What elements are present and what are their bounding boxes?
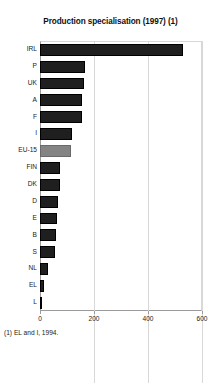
bar-row (40, 227, 202, 244)
bar-row (40, 294, 202, 311)
x-tick-400 (148, 311, 149, 314)
bar-series (40, 41, 202, 311)
bar-UK (40, 78, 84, 90)
y-tick-label-B: B (0, 227, 37, 244)
y-tick-label-L: L (0, 294, 37, 311)
x-tick-200 (94, 311, 95, 314)
y-tick-label-D: D (0, 193, 37, 210)
bar-S (40, 246, 55, 258)
y-tick-label-UK: UK (0, 75, 37, 92)
bar-row (40, 92, 202, 109)
bar-row (40, 277, 202, 294)
y-tick-label-E: E (0, 210, 37, 227)
bar-row (40, 75, 202, 92)
y-tick-label-I: I (0, 125, 37, 142)
gridline-600 (202, 41, 203, 383)
bar-row (40, 193, 202, 210)
bar-B (40, 229, 56, 241)
y-axis-labels: IRLPUKAFIEU-15FINDKDEBSNLELL (0, 41, 37, 311)
bar-IRL (40, 44, 183, 56)
y-tick-label-NL: NL (0, 260, 37, 277)
bar-row (40, 58, 202, 75)
y-tick-label-FIN: FIN (0, 159, 37, 176)
bar-P (40, 61, 85, 73)
chart-footnote: (1) EL and I, 1994. (4, 329, 58, 336)
y-tick-label-S: S (0, 244, 37, 261)
bar-row (40, 41, 202, 58)
y-tick-label-IRL: IRL (0, 41, 37, 58)
bar-L (40, 297, 42, 309)
x-tick-label-200: 200 (79, 315, 109, 322)
y-tick-label-EU-15: EU-15 (0, 142, 37, 159)
bar-row (40, 176, 202, 193)
y-tick-label-EL: EL (0, 277, 37, 294)
bar-D (40, 196, 58, 208)
bar-EL (40, 280, 44, 292)
bar-DK (40, 179, 60, 191)
bar-row (40, 244, 202, 261)
bar-row (40, 210, 202, 227)
bar-row (40, 142, 202, 159)
x-tick-0 (40, 311, 41, 314)
x-tick-label-0: 0 (25, 315, 55, 322)
y-tick-label-F: F (0, 109, 37, 126)
bar-FIN (40, 162, 60, 174)
bar-A (40, 94, 82, 106)
x-tick-600 (202, 311, 203, 314)
bar-E (40, 213, 57, 225)
bar-row (40, 159, 202, 176)
bar-row (40, 260, 202, 277)
y-tick-label-DK: DK (0, 176, 37, 193)
bar-EU-15 (40, 145, 71, 157)
bar-row (40, 109, 202, 126)
y-tick-label-A: A (0, 92, 37, 109)
bar-I (40, 128, 72, 140)
bar-NL (40, 263, 48, 275)
y-tick-label-P: P (0, 58, 37, 75)
bar-F (40, 111, 82, 123)
x-tick-label-400: 400 (133, 315, 163, 322)
x-tick-label-600: 600 (187, 315, 217, 322)
bar-row (40, 125, 202, 142)
chart-title: Production specialisation (1997) (1) (0, 17, 221, 26)
